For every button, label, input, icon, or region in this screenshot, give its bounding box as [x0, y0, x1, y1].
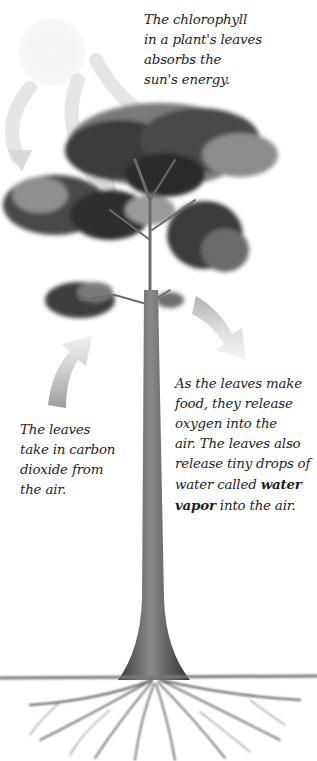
caption-line: sun's energy.	[144, 70, 262, 90]
caption-line: take in carbon	[20, 440, 115, 460]
tree-roots	[0, 676, 317, 760]
caption-line: release tiny drops of	[175, 454, 310, 474]
photosynthesis-diagram: The chlorophyll in a plant's leaves abso…	[0, 0, 317, 761]
caption-oxygen-release: As the leaves make food, they release ox…	[175, 374, 310, 516]
caption-text: into the air.	[216, 498, 296, 513]
vocab-term: water	[261, 476, 302, 492]
vocab-term: vapor	[175, 497, 216, 513]
down-arrow-icon	[192, 296, 246, 360]
caption-carbon-dioxide: The leaves take in carbon dioxide from t…	[20, 420, 115, 500]
caption-line: vapor into the air.	[175, 495, 310, 516]
caption-line: The leaves	[20, 420, 115, 440]
caption-line: air. The leaves also	[175, 434, 310, 454]
caption-line: absorbs the	[144, 50, 262, 70]
caption-line: water called water	[175, 474, 310, 495]
caption-line: dioxide from	[20, 460, 115, 480]
caption-line: The chlorophyll	[144, 10, 262, 30]
caption-line: in a plant's leaves	[144, 30, 262, 50]
up-arrow-icon	[48, 336, 92, 408]
tree-canopy	[3, 103, 278, 318]
caption-line: the air.	[20, 480, 115, 500]
caption-text: water called	[175, 477, 261, 492]
caption-line: oxygen into the	[175, 414, 310, 434]
caption-line: food, they release	[175, 394, 310, 414]
caption-sun-energy: The chlorophyll in a plant's leaves abso…	[144, 10, 262, 90]
caption-line: As the leaves make	[175, 374, 310, 394]
